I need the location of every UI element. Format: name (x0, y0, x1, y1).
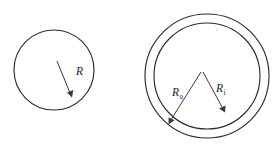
inner-radius-label-subscript: i (223, 89, 225, 97)
annulus-group: Ro Ri (145, 14, 269, 138)
inner-radius-label: Ri (215, 82, 225, 97)
inner-radius-label-base: R (215, 82, 223, 94)
inner-radius-arrowhead (219, 105, 226, 112)
outer-radius-label-base: R (171, 86, 179, 98)
radius-label-R: R (75, 65, 83, 77)
radius-label-R-base: R (75, 65, 83, 77)
annulus-inner-circle-outline (154, 23, 260, 129)
radius-arrowhead-R (67, 90, 73, 97)
diagram-svg: R Ro Ri (0, 0, 274, 147)
left-circle-group: R (14, 30, 94, 110)
outer-radius-label: Ro (171, 86, 183, 101)
radius-leader-line-R (57, 61, 70, 94)
figure-canvas: R Ro Ri (0, 0, 274, 147)
annulus-outer-circle-outline (145, 14, 269, 138)
outer-radius-label-subscript: o (179, 93, 183, 101)
